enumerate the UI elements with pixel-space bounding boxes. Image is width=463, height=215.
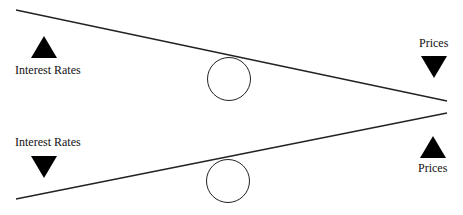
down-triangle-icon — [31, 156, 57, 178]
down-triangle-icon — [421, 56, 447, 78]
bottom-seesaw-beam — [16, 113, 447, 199]
top-fulcrum-circle — [208, 58, 251, 101]
bottom-left-label: Interest Rates — [15, 135, 81, 150]
bottom-fulcrum-circle — [207, 160, 250, 203]
seesaw-diagram — [0, 0, 463, 215]
bottom-right-label: Prices — [418, 161, 447, 176]
top-seesaw-beam — [16, 10, 447, 101]
top-right-label: Prices — [419, 36, 448, 51]
up-triangle-icon — [31, 36, 57, 58]
up-triangle-icon — [420, 136, 446, 158]
top-left-label: Interest Rates — [15, 63, 81, 78]
